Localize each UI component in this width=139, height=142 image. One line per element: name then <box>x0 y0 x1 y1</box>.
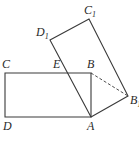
label-d: D <box>2 119 12 133</box>
label-b1: B1 <box>130 93 139 109</box>
label-e: E <box>52 57 61 71</box>
label-c: C <box>2 57 11 71</box>
label-b: B <box>87 57 95 71</box>
label-d1: D1 <box>35 25 49 41</box>
label-a: A <box>86 119 95 133</box>
label-c1: C1 <box>84 3 96 19</box>
rectangle-abcd <box>5 73 91 117</box>
geometry-diagram: A B C D E B1 C1 D1 <box>0 0 139 142</box>
